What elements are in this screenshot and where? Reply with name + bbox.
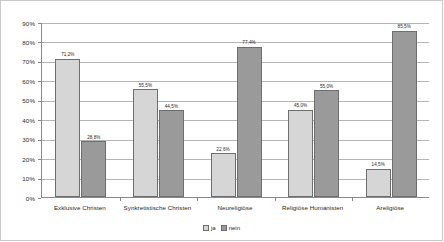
y-axis-tick-label: 90% (9, 20, 35, 27)
bar-ja (366, 169, 391, 197)
y-axis-tick-mark (38, 198, 41, 199)
bar-value-label: 77,4% (242, 40, 255, 45)
legend-label: nein (229, 225, 240, 231)
x-axis-tick-mark (197, 197, 198, 201)
x-axis-tick-mark (120, 197, 121, 201)
bar-ja (288, 110, 313, 198)
plot-area: 71,2%28,8%55,5%44,5%22,6%77,4%45,0%55,0%… (41, 23, 429, 198)
gridline (42, 81, 429, 82)
y-axis-tick-label: 60% (9, 78, 35, 85)
bar-value-label: 28,8% (87, 135, 100, 140)
legend-swatch-nein-icon (221, 225, 227, 231)
bar-value-label: 44,5% (165, 104, 178, 109)
bar-nein (81, 141, 106, 197)
gridline (42, 42, 429, 43)
category-label: Neureligiöse (218, 204, 253, 211)
gridline (42, 23, 429, 24)
bar-nein (159, 110, 184, 197)
y-axis-tick-label: 40% (9, 117, 35, 124)
legend-swatch-ja-icon (203, 225, 209, 231)
gridline (42, 62, 429, 63)
category-label: Areligiöse (376, 204, 404, 211)
x-axis-tick-mark (275, 197, 276, 201)
y-axis-tick-label: 30% (9, 136, 35, 143)
bar-value-label: 85,5% (398, 24, 411, 29)
bar-value-label: 22,6% (216, 147, 229, 152)
bar-ja (133, 89, 158, 197)
category-label: Exklusive Christen (54, 204, 106, 211)
bar-nein (237, 47, 262, 198)
gridline (42, 120, 429, 121)
bar-value-label: 71,2% (61, 52, 74, 57)
legend-item-nein: nein (221, 225, 240, 231)
chart-frame: 0%10%20%30%40%50%60%70%80%90% 71,2%28,8%… (0, 0, 443, 241)
x-axis-tick-mark (352, 197, 353, 201)
bar-ja (55, 59, 80, 197)
category-label: Religiöse Humanisten (282, 204, 343, 211)
bar-value-label: 55,0% (320, 84, 333, 89)
y-axis-tick-label: 50% (9, 97, 35, 104)
chart-legend: janein (1, 225, 442, 231)
y-axis-tick-label: 80% (9, 39, 35, 46)
bar-nein (392, 31, 417, 197)
category-label: Synkretistische Christen (124, 204, 192, 211)
legend-item-ja: ja (203, 225, 216, 231)
y-axis-tick-label: 20% (9, 156, 35, 163)
gridline (42, 101, 429, 102)
bar-ja (211, 153, 236, 197)
y-axis-tick-label: 0% (9, 195, 35, 202)
bar-nein (314, 90, 339, 197)
legend-label: ja (211, 225, 216, 231)
y-axis-tick-label: 70% (9, 58, 35, 65)
bar-value-label: 45,0% (294, 103, 307, 108)
bar-value-label: 14,5% (372, 162, 385, 167)
bar-value-label: 55,5% (139, 83, 152, 88)
y-axis-tick-label: 10% (9, 175, 35, 182)
